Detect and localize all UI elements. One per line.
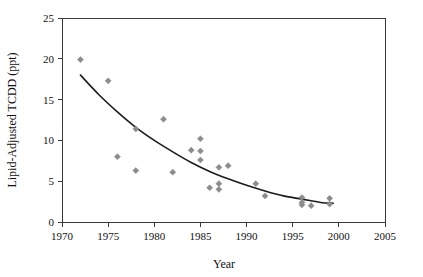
x-axis-ticks: 19701975198019851990199520002005 (51, 222, 397, 242)
data-point-marker (308, 203, 314, 209)
y-tick-label: 5 (49, 175, 55, 187)
scatter-plot-svg: 0510152025 19701975198019851990199520002… (0, 0, 423, 277)
data-point-marker (216, 164, 222, 170)
data-point-marker (197, 157, 203, 163)
y-tick-label: 10 (43, 134, 55, 146)
y-tick-label: 0 (49, 216, 55, 228)
fit-curve (80, 75, 333, 203)
data-point-marker (327, 195, 333, 201)
data-point-marker (197, 148, 203, 154)
fit-curve-group (80, 75, 333, 203)
y-tick-label: 15 (43, 94, 55, 106)
x-tick-label: 1985 (189, 230, 212, 242)
data-point-marker (170, 169, 176, 175)
data-point-marker (253, 181, 259, 187)
data-point-marker (133, 126, 139, 132)
x-tick-label: 1970 (51, 230, 74, 242)
chart-figure: 0510152025 19701975198019851990199520002… (0, 0, 423, 277)
data-point-marker (77, 57, 83, 63)
x-tick-label: 2000 (328, 230, 351, 242)
data-markers (77, 57, 332, 209)
data-point-marker (133, 167, 139, 173)
x-tick-label: 1975 (97, 230, 120, 242)
data-point-marker (160, 116, 166, 122)
data-point-marker (197, 136, 203, 142)
plot-frame (62, 18, 385, 222)
x-axis-title: Year (213, 257, 235, 271)
data-point-marker (188, 147, 194, 153)
y-axis-ticks: 0510152025 (43, 12, 62, 228)
x-tick-label: 1980 (143, 230, 166, 242)
data-point-marker (114, 154, 120, 160)
data-point-marker (262, 193, 268, 199)
x-tick-label: 1990 (236, 230, 259, 242)
x-tick-label: 2005 (374, 230, 397, 242)
data-point-marker (207, 185, 213, 191)
data-point-marker (105, 78, 111, 84)
y-tick-label: 25 (43, 12, 55, 24)
y-axis-title: Lipid-Adjusted TCDD (ppt) (5, 52, 19, 187)
y-tick-label: 20 (43, 53, 55, 65)
x-tick-label: 1995 (282, 230, 305, 242)
data-point-marker (216, 186, 222, 192)
data-point-marker (216, 181, 222, 187)
data-point-marker (327, 201, 333, 207)
data-point-marker (225, 163, 231, 169)
axis-frame (62, 18, 385, 222)
